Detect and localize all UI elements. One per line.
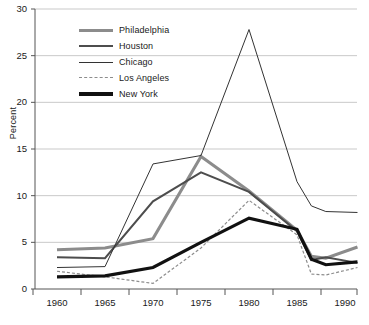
legend-item-chicago: Chicago — [79, 54, 197, 70]
y-tick-label: 10 — [5, 191, 27, 201]
x-tick-label: 1980 — [229, 298, 269, 308]
legend-swatch-new-york — [79, 87, 113, 101]
legend-label-chicago: Chicago — [119, 57, 153, 67]
x-tick-label: 1990 — [325, 298, 365, 308]
x-tick-label: 1975 — [181, 298, 221, 308]
legend-item-philadelphia: Philadelphia — [79, 22, 197, 38]
x-tick-label: 1985 — [277, 298, 317, 308]
y-tick-label: 20 — [5, 97, 27, 107]
legend-label-philadelphia: Philadelphia — [119, 25, 169, 35]
y-tick-label: 25 — [5, 51, 27, 61]
legend-swatch-chicago — [79, 55, 113, 69]
y-tick-label: 0 — [5, 284, 27, 294]
series-line-philadelphia — [57, 156, 357, 258]
legend-item-houston: Houston — [79, 38, 197, 54]
legend-swatch-los-angeles — [79, 71, 113, 85]
x-tick-label: 1960 — [37, 298, 77, 308]
legend-label-los-angeles: Los Angeles — [119, 73, 169, 83]
legend-swatch-houston — [79, 39, 113, 53]
y-tick-label: 5 — [5, 237, 27, 247]
legend-swatch-philadelphia — [79, 23, 113, 37]
x-tick-label: 1965 — [85, 298, 125, 308]
x-tick-label: 1970 — [133, 298, 173, 308]
y-tick-label: 30 — [5, 4, 27, 14]
line-chart: Percent 051015202530 1960196519701975198… — [0, 0, 369, 325]
legend-label-new-york: New York — [119, 89, 158, 99]
chart-legend: Philadelphia Houston Chicago Los Angeles… — [79, 22, 197, 102]
legend-label-houston: Houston — [119, 41, 153, 51]
y-tick-label: 15 — [5, 144, 27, 154]
legend-item-new-york: New York — [79, 86, 197, 102]
legend-item-los-angeles: Los Angeles — [79, 70, 197, 86]
